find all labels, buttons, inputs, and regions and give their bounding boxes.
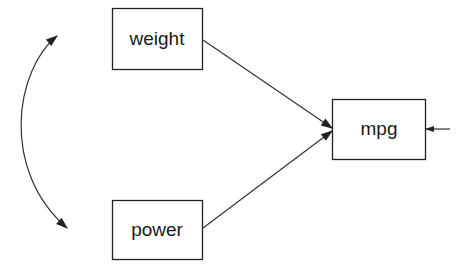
edge-power-to-mpg (203, 131, 332, 228)
weight-label: weight (129, 28, 186, 49)
node-mpg[interactable]: mpg (333, 100, 426, 160)
edge-weight-to-mpg (203, 40, 332, 128)
power-label: power (131, 219, 183, 240)
node-weight[interactable]: weight (113, 9, 203, 70)
node-power[interactable]: power (113, 201, 203, 260)
mpg-label: mpg (361, 118, 398, 139)
covariance-arrow (21, 36, 67, 228)
path-diagram: weight power mpg (0, 0, 458, 269)
